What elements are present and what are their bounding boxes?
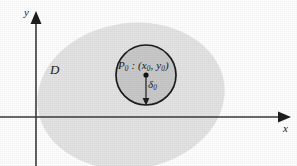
x-axis-label: x [283, 122, 288, 134]
x-axis-arrow-icon [278, 112, 291, 123]
point-p0-marker [143, 72, 148, 77]
math-figure-canvas: D P0 : (x0, y0) δ0 y x [0, 0, 297, 166]
y-axis-arrow-icon [31, 11, 42, 24]
region-d-label: D [50, 62, 59, 78]
point-p0-label: P0 : (x0, y0) [118, 59, 169, 73]
delta-zero-label: δ0 [148, 78, 157, 92]
y-axis-label: y [24, 6, 29, 18]
